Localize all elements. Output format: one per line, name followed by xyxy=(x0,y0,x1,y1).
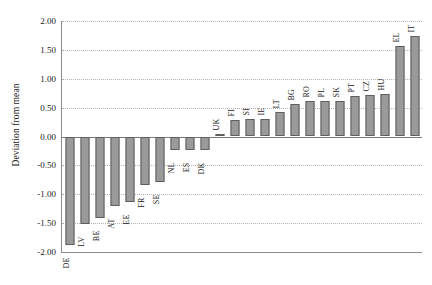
y-axis-title: Deviation from mean xyxy=(11,25,21,225)
bar-group[interactable]: LV xyxy=(77,21,92,252)
bar-category-label: HU xyxy=(376,78,385,90)
bar[interactable] xyxy=(95,137,104,218)
bar-category-label: AT xyxy=(106,218,115,228)
bar[interactable] xyxy=(80,137,89,224)
y-tick-label: 2.00 xyxy=(22,16,56,26)
bar[interactable] xyxy=(245,119,254,136)
bar[interactable] xyxy=(290,104,299,136)
bar-category-label: FR xyxy=(136,198,145,208)
bar-group[interactable]: IE xyxy=(257,21,272,252)
bar-category-label: DK xyxy=(196,162,205,174)
bar-group[interactable]: IT xyxy=(407,21,422,252)
bar-group[interactable]: HU xyxy=(377,21,392,252)
bar-category-label: SK xyxy=(331,87,340,98)
bar-series: DELVBEATEEFRSENLESDKUKFISIIELTBGROPLSKPT… xyxy=(62,21,422,252)
bar[interactable] xyxy=(185,137,194,150)
bar[interactable] xyxy=(395,46,404,137)
bar-category-label: IT xyxy=(406,25,415,33)
bar-category-label: EL xyxy=(391,32,400,42)
bar-group[interactable]: DK xyxy=(197,21,212,252)
y-tick-label: 0.50 xyxy=(22,103,56,113)
bar-group[interactable]: FI xyxy=(227,21,242,252)
bar-chart: Deviation from mean 2.001.501.000.500.00… xyxy=(0,0,432,285)
bar-group[interactable]: EL xyxy=(392,21,407,252)
bar-category-label: EE xyxy=(121,214,130,224)
bar-group[interactable]: SE xyxy=(152,21,167,252)
bar-group[interactable]: EE xyxy=(122,21,137,252)
bar[interactable] xyxy=(155,137,164,183)
bar-category-label: RO xyxy=(301,86,310,98)
bar[interactable] xyxy=(350,96,359,136)
bar-category-label: ES xyxy=(181,162,190,172)
bar-group[interactable]: AT xyxy=(107,21,122,252)
bar[interactable] xyxy=(275,112,284,136)
bar-group[interactable]: FR xyxy=(137,21,152,252)
x-axis-line xyxy=(61,252,422,253)
bar[interactable] xyxy=(65,137,74,246)
bar[interactable] xyxy=(335,101,344,137)
y-tick-label: 0.00 xyxy=(22,132,56,142)
y-tick-label: -2.00 xyxy=(22,247,56,257)
bar-group[interactable]: SK xyxy=(332,21,347,252)
bar[interactable] xyxy=(170,137,179,150)
bar-group[interactable]: DE xyxy=(62,21,77,252)
bar-category-label: BG xyxy=(286,89,295,101)
bar-category-label: SI xyxy=(241,108,250,116)
bar-group[interactable]: RO xyxy=(302,21,317,252)
bar-category-label: SE xyxy=(151,195,160,205)
bar[interactable] xyxy=(260,119,269,137)
bar-group[interactable]: BE xyxy=(92,21,107,252)
bar[interactable] xyxy=(380,94,389,137)
bar-group[interactable]: UK xyxy=(212,21,227,252)
y-tick-label: 1.00 xyxy=(22,74,56,84)
bar-category-label: UK xyxy=(211,119,220,131)
bar-category-label: BE xyxy=(91,230,100,241)
bar-group[interactable]: PT xyxy=(347,21,362,252)
y-tick-label: -1.50 xyxy=(22,218,56,228)
y-tick-label: -1.00 xyxy=(22,189,56,199)
bar-group[interactable]: ES xyxy=(182,21,197,252)
bar-category-label: NL xyxy=(166,162,175,173)
bar[interactable] xyxy=(365,95,374,137)
bar[interactable] xyxy=(230,120,239,136)
bar[interactable] xyxy=(215,134,224,136)
bar[interactable] xyxy=(125,137,134,202)
bar-category-label: IE xyxy=(256,107,265,115)
bar[interactable] xyxy=(305,101,314,137)
bar-category-label: CZ xyxy=(361,81,370,92)
y-tick-label: 1.50 xyxy=(22,45,56,55)
bar-category-label: LT xyxy=(271,99,280,108)
bar-category-label: PT xyxy=(346,83,355,93)
bar-category-label: FI xyxy=(226,109,235,117)
bar-group[interactable]: PL xyxy=(317,21,332,252)
bar-group[interactable]: CZ xyxy=(362,21,377,252)
plot-area: DELVBEATEEFRSENLESDKUKFISIIELTBGROPLSKPT… xyxy=(62,21,422,252)
bar-group[interactable]: SI xyxy=(242,21,257,252)
bar[interactable] xyxy=(140,137,149,186)
bar-group[interactable]: NL xyxy=(167,21,182,252)
bar[interactable] xyxy=(200,137,209,150)
y-axis-tick-labels: 2.001.501.000.500.00-0.50-1.00-1.50-2.00 xyxy=(22,0,56,285)
bar-category-label: PL xyxy=(316,87,325,97)
y-tick-label: -0.50 xyxy=(22,160,56,170)
bar-group[interactable]: LT xyxy=(272,21,287,252)
bar-category-label: LV xyxy=(76,236,85,246)
bar-group[interactable]: BG xyxy=(287,21,302,252)
bar[interactable] xyxy=(320,101,329,137)
bar-category-label: DE xyxy=(61,258,70,269)
bar[interactable] xyxy=(410,36,419,136)
bar[interactable] xyxy=(110,137,119,206)
